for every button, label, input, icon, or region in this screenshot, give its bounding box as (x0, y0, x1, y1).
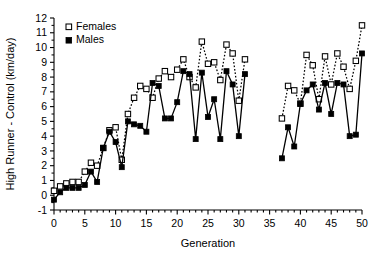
data-point-marker (131, 95, 136, 100)
data-point-marker (94, 163, 99, 168)
scatter-line-chart: -10123456789101112 05101520253035404550 … (0, 0, 375, 264)
data-point-marker (304, 88, 309, 93)
data-point-marker (138, 123, 143, 128)
y-axis-tick-label: 9 (41, 56, 47, 68)
data-point-marker (199, 70, 204, 75)
data-point-marker (218, 137, 223, 142)
data-point-marker (323, 80, 328, 85)
y-axis-title: High Runner - Control (km/day) (4, 38, 16, 191)
data-point-marker (88, 160, 93, 165)
data-point-marker (341, 64, 346, 69)
y-axis-tick-label: 10 (35, 41, 47, 53)
data-point-marker (132, 122, 137, 127)
legend-label-males: Males (76, 33, 104, 45)
data-point-marker (212, 97, 217, 102)
x-axis-tick-label: 45 (325, 217, 337, 229)
data-point-marker (113, 140, 118, 145)
series-line (282, 53, 362, 158)
y-axis-tick-label: 7 (41, 85, 47, 97)
data-point-marker (95, 179, 100, 184)
data-point-marker (119, 165, 124, 170)
data-point-marker (335, 80, 340, 85)
data-point-marker (242, 72, 247, 77)
data-point-marker (286, 125, 291, 130)
y-axis-title-text: High Runner - Control (km/day) (4, 38, 16, 191)
data-point-marker (150, 80, 155, 85)
data-point-marker (156, 76, 161, 81)
data-point-marker (347, 134, 352, 139)
data-point-marker (76, 179, 81, 184)
data-point-marker (298, 101, 303, 106)
data-point-marker (58, 190, 63, 195)
data-point-marker (162, 68, 167, 73)
data-point-marker (70, 185, 75, 190)
data-point-marker (138, 83, 143, 88)
x-axis-tick-label: 15 (141, 217, 153, 229)
data-point-marker (292, 88, 297, 93)
x-axis-tick-label: 0 (51, 217, 57, 229)
data-point-marker (329, 82, 334, 87)
data-point-marker (230, 51, 235, 56)
data-point-marker (82, 169, 87, 174)
data-point-marker (82, 182, 87, 187)
y-axis-tick-label: 12 (35, 12, 47, 24)
data-point-marker (70, 179, 75, 184)
data-point-marker (156, 83, 161, 88)
data-point-marker (292, 144, 297, 149)
data-point-marker (353, 58, 358, 63)
data-point-marker (211, 60, 216, 65)
data-point-marker (322, 54, 327, 59)
data-point-marker (125, 119, 130, 124)
data-point-marker (57, 184, 62, 189)
data-point-marker (316, 107, 321, 112)
data-point-marker (144, 129, 149, 134)
data-point-marker (175, 67, 180, 72)
data-point-marker (52, 197, 57, 202)
y-axis-tick-label: 5 (41, 115, 47, 127)
chart-legend: FemalesMales (66, 20, 116, 45)
data-point-marker (224, 42, 229, 47)
y-axis-tick-label: 1 (41, 174, 47, 186)
y-axis-tick-label: 6 (41, 100, 47, 112)
data-point-marker (187, 72, 192, 77)
legend-marker-males (66, 38, 72, 44)
data-point-marker (236, 134, 241, 139)
data-point-marker (279, 156, 284, 161)
data-point-marker (310, 82, 315, 87)
data-point-marker (144, 86, 149, 91)
x-axis-tick-label: 20 (171, 217, 183, 229)
legend-marker-females (66, 24, 72, 30)
y-axis-tick-label: -1 (38, 204, 47, 216)
x-axis-tick-label: 25 (202, 217, 214, 229)
series-line (282, 25, 362, 118)
data-point-marker (310, 63, 315, 68)
data-point-marker (360, 51, 365, 56)
data-point-marker (101, 145, 106, 150)
y-axis-tick-label: 2 (41, 159, 47, 171)
data-point-marker (169, 116, 174, 121)
data-point-marker (162, 116, 167, 121)
data-point-marker (285, 83, 290, 88)
data-point-marker (359, 23, 364, 28)
data-point-marker (279, 116, 284, 121)
y-axis-tick-label: 8 (41, 71, 47, 83)
data-point-marker (51, 188, 56, 193)
data-point-marker (242, 57, 247, 62)
data-point-marker (329, 112, 334, 117)
data-point-marker (88, 169, 93, 174)
data-point-marker (341, 82, 346, 87)
data-point-marker (168, 74, 173, 79)
data-point-marker (335, 51, 340, 56)
data-point-marker (230, 82, 235, 87)
x-axis-title-text: Generation (181, 237, 235, 249)
data-point-marker (113, 125, 118, 130)
data-point-marker (224, 69, 229, 74)
data-series-group (51, 23, 364, 202)
x-axis-tick-label: 30 (233, 217, 245, 229)
data-point-marker (218, 77, 223, 82)
x-axis-tick-label: 50 (356, 217, 368, 229)
data-point-marker (76, 185, 81, 190)
x-axis-tick-label: 10 (110, 217, 122, 229)
x-axis-title: Generation (181, 237, 235, 249)
x-axis-tick-label: 35 (264, 217, 276, 229)
